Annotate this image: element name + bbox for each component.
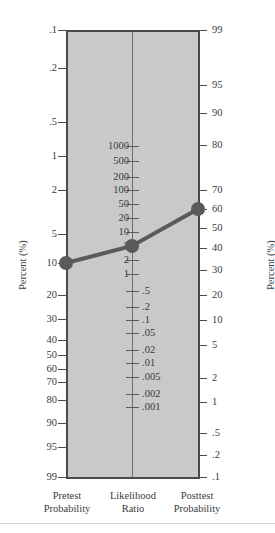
tick-label: .02 <box>142 345 155 356</box>
tick-mark <box>198 113 207 114</box>
tick-mark <box>126 291 139 292</box>
tick-mark <box>58 295 67 296</box>
tick-mark <box>198 320 207 321</box>
tick-mark <box>58 190 67 191</box>
tick-label: .2 <box>142 302 150 313</box>
tick-mark <box>58 122 67 123</box>
tick-label: 50 <box>212 223 223 234</box>
tick-mark <box>198 378 207 379</box>
tick-mark <box>58 477 67 478</box>
panel-bottom-border <box>66 477 200 479</box>
tick-label: 40 <box>212 243 223 254</box>
plot-panel <box>67 30 199 478</box>
tick-label: 200 <box>113 172 129 183</box>
tick-label: 2 <box>124 255 129 266</box>
left-axis-caption: Percent (%) <box>17 240 28 290</box>
tick-label: 95 <box>47 442 58 453</box>
tick-mark <box>198 402 207 403</box>
column-header-posttest-line1: Posttest <box>181 490 214 501</box>
tick-label: .005 <box>142 372 160 383</box>
tick-mark <box>126 307 139 308</box>
tick-label: 1 <box>52 151 57 162</box>
tick-mark <box>198 85 207 86</box>
tick-label: 500 <box>113 156 129 167</box>
tick-label: 30 <box>212 265 223 276</box>
tick-label: 1000 <box>108 141 129 152</box>
tick-label: 60 <box>212 204 223 215</box>
tick-label: 90 <box>47 418 58 429</box>
tick-label: 100 <box>113 185 129 196</box>
tick-mark <box>58 319 67 320</box>
tick-label: .05 <box>142 328 155 339</box>
tick-label: .002 <box>142 389 160 400</box>
tick-mark <box>198 30 207 31</box>
tick-label: 70 <box>212 185 223 196</box>
tick-label: 95 <box>212 80 223 91</box>
tick-mark <box>58 340 67 341</box>
tick-label: .2 <box>212 450 220 461</box>
tick-label: 10 <box>47 258 58 269</box>
column-header-pretest-line1: Pretest <box>53 490 82 501</box>
tick-label: .1 <box>142 315 150 326</box>
tick-mark <box>58 234 67 235</box>
tick-label: .5 <box>212 428 220 439</box>
tick-label: 99 <box>212 25 223 36</box>
tick-label: .1 <box>212 472 220 483</box>
tick-mark <box>58 156 67 157</box>
tick-label: .01 <box>142 358 155 369</box>
page-rule <box>0 523 275 524</box>
tick-label: 70 <box>47 377 58 388</box>
tick-label: 20 <box>212 290 223 301</box>
tick-label: 30 <box>47 314 58 325</box>
tick-label: 20 <box>119 213 130 224</box>
tick-label: 5 <box>212 340 217 351</box>
tick-mark <box>198 477 207 478</box>
tick-label: 1 <box>124 269 129 280</box>
fagan-nomogram: .1.2.51251020304050607080909599100050020… <box>0 0 275 533</box>
tick-mark <box>198 295 207 296</box>
pretest-axis-line <box>66 30 68 478</box>
tick-label: 99 <box>47 472 58 483</box>
tick-mark <box>126 394 139 395</box>
tick-label: 20 <box>47 290 58 301</box>
tick-label: 40 <box>47 335 58 346</box>
tick-label: .001 <box>142 402 160 413</box>
tick-label: 60 <box>47 364 58 375</box>
column-header-posttest-line2: Probability <box>152 502 242 515</box>
tick-mark <box>126 320 139 321</box>
tick-mark <box>58 447 67 448</box>
tick-mark <box>198 455 207 456</box>
tick-mark <box>198 433 207 434</box>
tick-label: 50 <box>47 350 58 361</box>
tick-mark <box>58 263 67 264</box>
tick-label: .1 <box>49 25 57 36</box>
tick-label: 90 <box>212 108 223 119</box>
tick-mark <box>198 228 207 229</box>
tick-mark <box>58 423 67 424</box>
column-header-posttest: Posttest Probability <box>152 489 242 515</box>
tick-mark <box>126 350 139 351</box>
tick-label: .5 <box>142 286 150 297</box>
tick-label: 1 <box>212 397 217 408</box>
posttest-axis-line <box>198 30 200 478</box>
tick-label: 10 <box>119 227 130 238</box>
tick-mark <box>198 145 207 146</box>
tick-mark <box>198 209 207 210</box>
tick-mark <box>198 270 207 271</box>
tick-label: 80 <box>47 395 58 406</box>
tick-mark <box>58 382 67 383</box>
tick-mark <box>58 369 67 370</box>
tick-label: 80 <box>212 140 223 151</box>
tick-label: .2 <box>49 63 57 74</box>
tick-label: 5 <box>52 229 57 240</box>
tick-mark <box>198 190 207 191</box>
right-axis-caption: Percent (%) <box>265 240 275 290</box>
tick-label: 2 <box>212 373 217 384</box>
tick-mark <box>58 68 67 69</box>
tick-mark <box>58 400 67 401</box>
panel-top-border <box>66 30 200 32</box>
tick-label: 5 <box>124 241 129 252</box>
tick-label: 2 <box>52 185 57 196</box>
likelihood-axis-line <box>132 30 133 478</box>
tick-mark <box>58 355 67 356</box>
